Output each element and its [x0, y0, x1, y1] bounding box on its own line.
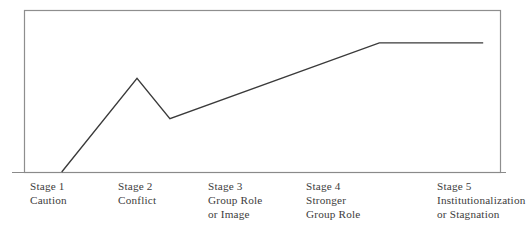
- stage-4-desc-line-1: Stronger: [306, 193, 361, 207]
- stage-label-1: Stage 1 Caution: [30, 179, 67, 207]
- stage-label-3: Stage 3 Group Role or Image: [208, 179, 263, 222]
- stage-3-desc-line-2: or Image: [208, 207, 263, 221]
- stage-4-name: Stage 4: [306, 179, 361, 193]
- stage-5-name: Stage 5: [437, 179, 526, 193]
- stage-label-2: Stage 2 Conflict: [118, 179, 156, 207]
- stage-4-desc-line-2: Group Role: [306, 207, 361, 221]
- stage-1-desc-line-1: Caution: [30, 193, 67, 207]
- stage-5-desc-line-2: or Stagnation: [437, 207, 526, 221]
- stage-3-desc-line-1: Group Role: [208, 193, 263, 207]
- stage-label-4: Stage 4 Stronger Group Role: [306, 179, 361, 222]
- stage-5-desc-line-1: Institutionalization: [437, 193, 526, 207]
- stage-development-figure: Stage 1 Caution Stage 2 Conflict Stage 3…: [0, 0, 529, 230]
- stage-3-name: Stage 3: [208, 179, 263, 193]
- stage-2-desc-line-1: Conflict: [118, 193, 156, 207]
- stage-2-name: Stage 2: [118, 179, 156, 193]
- stage-label-5: Stage 5 Institutionalization or Stagnati…: [437, 179, 526, 222]
- stage-1-name: Stage 1: [30, 179, 67, 193]
